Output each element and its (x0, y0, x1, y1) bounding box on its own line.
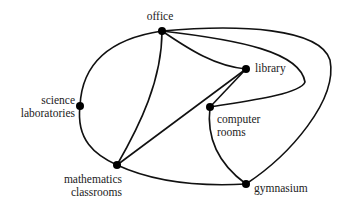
label-computer-rooms: computer rooms (217, 113, 260, 139)
label-science-laboratories: science laboratories (0, 94, 75, 120)
node-mathematics-classrooms (113, 161, 121, 169)
label-mathematics-classrooms: mathematics classrooms (50, 173, 122, 199)
node-computer-rooms (206, 103, 214, 111)
edge-office-mathematics-classrooms (117, 31, 162, 165)
edge-science-laboratories-mathematics-classrooms (79, 106, 117, 165)
node-library (242, 65, 250, 73)
label-office: office (134, 10, 186, 23)
node-office (158, 27, 166, 35)
node-science-laboratories (76, 102, 84, 110)
edge-office-gymnasium (162, 28, 331, 184)
node-gymnasium (242, 180, 250, 188)
edge-mathematics-classrooms-gymnasium (117, 165, 246, 185)
edge-library-computer-rooms (210, 69, 246, 107)
label-gymnasium: gymnasium (254, 182, 308, 195)
school-network-diagram: office library computer rooms science la… (0, 0, 351, 204)
label-library: library (255, 62, 286, 75)
